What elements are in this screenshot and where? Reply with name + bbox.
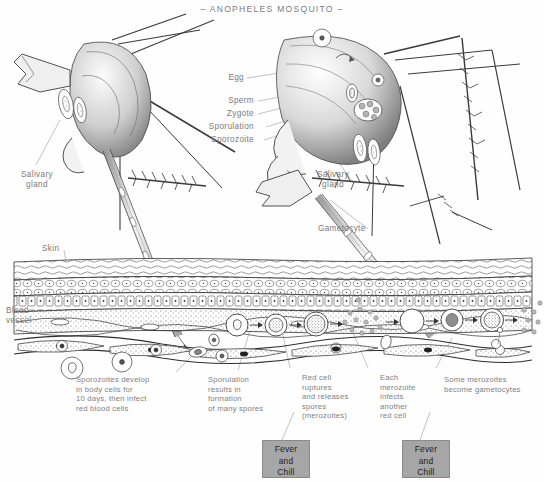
label-gametocyte: Gametocyte <box>318 224 398 234</box>
label-sporozoite: Sporozoite <box>160 135 254 145</box>
blood-vessel <box>14 336 532 364</box>
diagram-canvas: – ANOPHELES MOSQUITO – Egg Sperm Zygote … <box>0 0 544 482</box>
mosquito-right-legs <box>372 36 520 244</box>
sporulation-stage <box>354 99 382 121</box>
stage-1-infected-red-cell <box>226 314 248 336</box>
fever-and-chill-box-2: Fever and Chill <box>402 440 450 478</box>
page-title: – ANOPHELES MOSQUITO – <box>0 4 544 14</box>
label-salivary-gland-left: Salivary gland <box>4 170 70 191</box>
stage-6-newly-infected-cell <box>441 309 463 331</box>
mosquito-right-leg-bristles <box>438 54 485 216</box>
label-sperm: Sperm <box>178 96 254 106</box>
stage-3-schizont <box>304 312 328 336</box>
label-blood-vessel: Blood vessel <box>6 306 56 327</box>
stage-2-trophozoite <box>265 314 287 336</box>
egg-stage <box>313 29 331 47</box>
label-egg: Egg <box>168 73 244 83</box>
mosquito-left-palps <box>14 54 70 92</box>
fever-and-chill-box-1: Fever and Chill <box>262 440 310 478</box>
caption-sporozoites-develop: Sporozoites develop in body cells for 10… <box>76 375 196 413</box>
label-salivary-gland-right: Salivary gland <box>300 170 366 191</box>
label-skin: Skin <box>42 244 82 254</box>
caption-some-merozoites: Some merozoites become gametocytes <box>444 375 544 394</box>
stage-5-free-red-cell <box>400 309 424 333</box>
label-sporulation: Sporulation <box>160 122 254 132</box>
label-zygote: Zygote <box>178 109 254 119</box>
caption-each-merozoite: Each merozoite infects another red cell <box>380 373 436 421</box>
caption-red-cell-ruptures: Red cell ruptures and releases spores (m… <box>302 373 364 421</box>
caption-sporulation-results: Sporulation results in formation of many… <box>208 375 282 413</box>
